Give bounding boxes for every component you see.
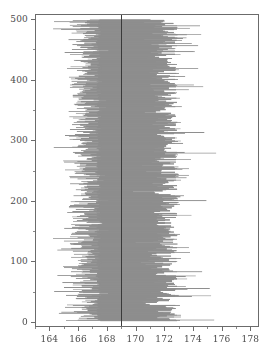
x-tick-minor [207, 327, 208, 329]
x-tick-minor [92, 327, 93, 329]
y-tick-label: 200 [2, 196, 28, 206]
x-tick-label: 176 [213, 334, 231, 344]
x-tick-label: 174 [184, 334, 202, 344]
x-tick-164 [49, 327, 50, 331]
x-tick-label: 178 [241, 334, 259, 344]
x-tick-label: 164 [40, 334, 58, 344]
y-tick-0 [31, 322, 35, 323]
y-tick-200 [31, 201, 35, 202]
y-tick-label: 500 [2, 14, 28, 24]
x-tick-172 [164, 327, 165, 331]
x-tick-label: 168 [98, 334, 116, 344]
y-tick-minor [33, 292, 35, 293]
x-tick-label: 170 [127, 334, 145, 344]
y-tick-minor [33, 231, 35, 232]
x-tick-176 [222, 327, 223, 331]
y-tick-300 [31, 140, 35, 141]
x-tick-minor [121, 327, 122, 329]
y-tick-minor [33, 171, 35, 172]
x-tick-166 [78, 327, 79, 331]
x-tick-170 [136, 327, 137, 331]
figure-canvas: 164166168170172174176178 010020030040050… [0, 0, 277, 363]
y-tick-label: 100 [2, 256, 28, 266]
x-tick-174 [193, 327, 194, 331]
x-tick-label: 172 [155, 334, 173, 344]
interval-bars-plot-area [36, 15, 258, 326]
x-tick-minor [179, 327, 180, 329]
x-tick-label: 166 [69, 334, 87, 344]
y-tick-minor [33, 49, 35, 50]
y-tick-400 [31, 80, 35, 81]
x-tick-minor [236, 327, 237, 329]
y-tick-label: 400 [2, 75, 28, 85]
y-tick-label: 300 [2, 135, 28, 145]
x-tick-178 [250, 327, 251, 331]
y-tick-100 [31, 261, 35, 262]
x-tick-168 [107, 327, 108, 331]
x-tick-minor [64, 327, 65, 329]
y-tick-minor [33, 110, 35, 111]
y-tick-500 [31, 19, 35, 20]
x-tick-minor [150, 327, 151, 329]
x-tick-minor [35, 327, 36, 329]
plot-frame [35, 14, 259, 327]
y-tick-label: 0 [2, 317, 28, 327]
